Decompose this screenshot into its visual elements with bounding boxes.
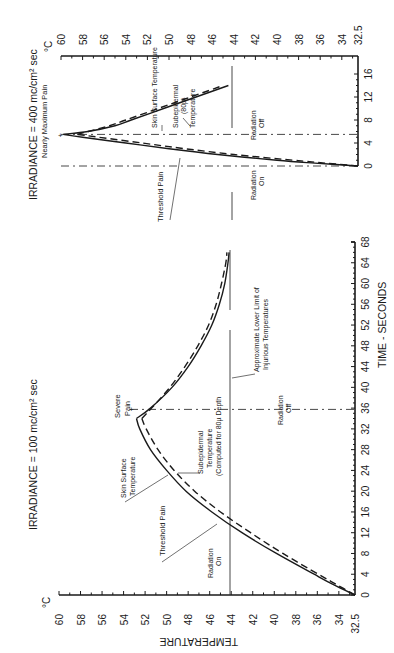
upper-threshold-label: Threshold Pain [156, 172, 165, 222]
time-tick-label: 64 [360, 257, 371, 269]
temp-tick-label: 42 [248, 614, 259, 626]
temp-tick-label: 56 [97, 614, 108, 626]
time-tick-label: 12 [360, 527, 371, 539]
upper-skin-curve [63, 86, 358, 167]
time-tick-label: 60 [360, 278, 371, 290]
lower-limit-label-2: Injurious Temperatures [262, 298, 270, 370]
temp-tick-label: 48 [183, 614, 194, 626]
chart-canvas: IRRADIANCE = 400 mc/cm² sec °C 605856545… [0, 0, 394, 653]
upper-rad-on-label-2: On [258, 177, 265, 186]
upper-sub-label-3: Temperature [189, 89, 197, 128]
lower-peak-label-1: Severe [113, 394, 122, 418]
time-tick-label: 40 [360, 381, 371, 393]
time-tick-label: 28 [360, 444, 371, 456]
time-tick-label: 32 [360, 423, 371, 435]
lower-threshold-label: Threshold Pain [158, 506, 167, 556]
upper-panel: IRRADIANCE = 400 mc/cm² sec °C 605856545… [27, 25, 374, 222]
upper-skin-label: Skin Surface Temperature [151, 47, 159, 128]
temp-tick-label: 34 [334, 614, 345, 626]
temp-tick-label: 42 [250, 33, 261, 45]
temp-tick-label: 54 [119, 614, 130, 626]
lower-temperature-axis: 605856545250484644424038363432.5 [54, 591, 361, 633]
temp-tick-label: 36 [312, 614, 323, 626]
time-tick-label: 36 [360, 402, 371, 414]
temp-tick-label: 46 [207, 33, 218, 45]
temp-tick-label: 48 [186, 33, 197, 45]
temp-tick-label: 34 [337, 33, 348, 45]
lower-limit-leader [232, 374, 255, 378]
temp-tick-label: 54 [121, 33, 132, 45]
temp-tick-label: 38 [291, 614, 302, 626]
time-tick-label: 16 [363, 68, 374, 80]
temp-tick-label: 52 [140, 614, 151, 626]
lower-rad-off-label-1: Radiation [277, 395, 284, 425]
temp-tick-label: 32.5 [353, 25, 364, 45]
lower-skin-curve [136, 252, 355, 595]
time-tick-label: 8 [360, 550, 371, 556]
time-tick-label: 20 [360, 485, 371, 497]
upper-unit-label: °C [43, 41, 54, 52]
lower-sub-label-2: Temperature [206, 429, 214, 468]
upper-sub-label-1: Subepidermal [172, 84, 180, 128]
lower-skin-label-2: Temperature [129, 457, 137, 496]
temp-tick-label: 44 [229, 33, 240, 45]
upper-threshold-leader [170, 158, 180, 220]
time-tick-label: 12 [363, 91, 374, 103]
temp-tick-label: 58 [76, 614, 87, 626]
time-tick-label: 4 [363, 140, 374, 146]
lower-limit-label-1: Approximate Lower Limit of [253, 287, 261, 372]
temperature-axis-label: TEMPERATURE [159, 636, 238, 648]
lower-rad-off-label-2: Off [285, 404, 292, 413]
time-tick-label: 68 [360, 236, 371, 248]
temp-tick-label: 46 [205, 614, 216, 626]
time-tick-label: 24 [360, 464, 371, 476]
temp-tick-label: 60 [56, 33, 67, 45]
upper-rad-off-label-2: Off [258, 119, 265, 128]
temp-tick-label: 38 [294, 33, 305, 45]
lower-rad-on-label-1: Radiation [207, 548, 214, 578]
figure: IRRADIANCE = 400 mc/cm² sec °C 605856545… [0, 0, 394, 653]
lower-subepidermal-curve [142, 252, 355, 595]
upper-peak-label: Nearly Maximum Pain [40, 85, 49, 158]
upper-rad-on-label-1: Radiation [250, 170, 257, 200]
lower-peak-label-2: Pain [123, 401, 132, 416]
temp-tick-label: 52 [142, 33, 153, 45]
time-tick-label: 0 [360, 592, 371, 598]
temp-tick-label: 40 [269, 614, 280, 626]
temp-tick-label: 60 [54, 614, 65, 626]
lower-rad-on-label-2: On [215, 557, 222, 566]
temp-tick-label: 32.5 [350, 614, 361, 634]
time-tick-label: 52 [360, 319, 371, 331]
lower-sub-label-3: (Computed for 80µ Depth [215, 397, 223, 476]
time-tick-label: 44 [360, 361, 371, 373]
upper-peak-marker: + [58, 131, 63, 140]
lower-time-axis: 048121620242832364044485256606468 [351, 236, 371, 598]
time-tick-label: 8 [363, 117, 374, 123]
temp-tick-label: 50 [164, 33, 175, 45]
upper-time-axis: 0481216 [354, 56, 374, 169]
temp-tick-label: 44 [226, 614, 237, 626]
upper-rad-off-label-1: Radiation [250, 110, 257, 140]
temp-tick-label: 58 [78, 33, 89, 45]
temp-tick-label: 40 [272, 33, 283, 45]
upper-temperature-axis: 605856545250484644424038363432.5 [56, 25, 364, 60]
upper-panel-title: IRRADIANCE = 400 mc/cm² sec [27, 49, 39, 200]
time-tick-label: 4 [360, 571, 371, 577]
lower-skin-label-1: Skin Surface [120, 458, 127, 498]
time-tick-label: 0 [363, 163, 374, 169]
lower-panel: IRRADIANCE = 100 mc/cm² sec °C 605856545… [27, 236, 371, 633]
time-tick-label: 48 [360, 340, 371, 352]
upper-sub-label-2: (80µ) [180, 98, 188, 114]
temp-tick-label: 50 [162, 614, 173, 626]
time-tick-label: 56 [360, 298, 371, 310]
lower-panel-title: IRRADIANCE = 100 mc/cm² sec [27, 379, 39, 530]
time-tick-label: 16 [360, 506, 371, 518]
lower-sub-label-1: Subepidermal [197, 430, 205, 474]
temp-tick-label: 36 [315, 33, 326, 45]
time-axis-label: TIME - SECONDS [376, 282, 388, 368]
temp-tick-label: 56 [99, 33, 110, 45]
lower-unit-label: °C [41, 597, 52, 608]
